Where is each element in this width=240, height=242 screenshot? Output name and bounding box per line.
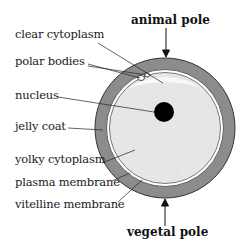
label-vegetal-pole: vegetal pole: [127, 226, 208, 238]
polar-body: [138, 76, 145, 81]
nucleus: [154, 102, 174, 122]
label-clear-cytoplasm: clear cytoplasm: [15, 29, 104, 41]
label-yolky-cytoplasm: yolky cytoplasm: [15, 154, 105, 166]
label-nucleus: nucleus: [15, 90, 59, 102]
label-jelly-coat: jelly coat: [15, 121, 66, 133]
label-plasma-membrane: plasma membrane: [15, 177, 120, 189]
label-vitelline-membrane: vitelline membrane: [15, 199, 124, 211]
label-animal-pole: animal pole: [131, 14, 210, 26]
label-polar-bodies: polar bodies: [15, 56, 85, 68]
